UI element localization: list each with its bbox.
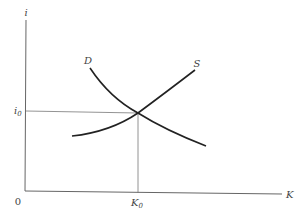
x-axis-label: K: [285, 189, 294, 200]
y-axis: [25, 20, 26, 191]
x-axis: [25, 191, 282, 194]
i0-sub: 0: [17, 110, 22, 118]
origin-label: 0: [15, 196, 21, 207]
i0-label: i0: [14, 105, 22, 118]
demand-label: D: [83, 55, 92, 66]
k0-sub: 0: [138, 202, 143, 210]
supply-curve: [72, 70, 195, 136]
k0-label: K0: [130, 197, 143, 210]
supply-demand-diagram: i K 0 D S i0 K0: [0, 0, 306, 217]
i0-guide-line: [26, 111, 138, 113]
demand-curve: [90, 68, 206, 146]
y-axis-label: i: [24, 7, 27, 18]
supply-label: S: [194, 58, 201, 69]
